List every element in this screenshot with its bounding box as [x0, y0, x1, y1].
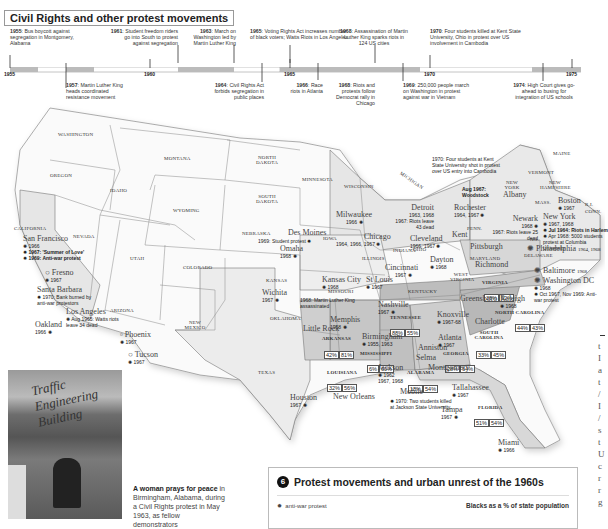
city-rochester: Rochester 1964, 1967 ✺: [454, 203, 486, 218]
edge-marker: [600, 335, 605, 336]
state-label-ri: R.I.: [585, 202, 593, 207]
city-richmond: Richmond: [475, 260, 508, 269]
timeline-event-1966: 1966: Race riots in Atlanta: [288, 82, 323, 94]
legend-number-badge: 6: [277, 476, 289, 488]
city-milwaukee: Milwaukee 1966 ✺: [336, 210, 372, 225]
state-label-arkansas: ARKANSAS: [322, 336, 351, 341]
city-phoenix: ▫ Phoenix ✺ 1967: [120, 330, 151, 345]
city-chicago: Chicago 1964, 1966, 1967 ✺: [336, 232, 391, 247]
woodstock-note: Aug 1967: Woodstock: [462, 186, 502, 198]
state-label-north-carolina: NORTH CAROLINA: [495, 310, 544, 315]
state-label-colorado: COLORADO: [183, 265, 212, 270]
timeline-event-1965: 1965: Voting Rights Act increases number…: [250, 28, 350, 40]
city-mobile: Mobile: [400, 387, 423, 396]
timeline-event-1961: 1961: Student freedom riders go into Sou…: [108, 28, 178, 46]
timeline-event-1968: 1968: Assassination of Martin Luther Kin…: [340, 28, 408, 46]
state-label-texas: TEXAS: [258, 370, 275, 375]
city-selma: Selma: [416, 353, 436, 362]
city-jackson: Jackson ✺ 1962 1967, 1968: [378, 363, 403, 384]
state-label-minnesota: MINNESOTA: [302, 177, 333, 182]
timeline-event-1969: 1969: 250,000 people march on Washington…: [403, 82, 475, 100]
city-washington-dc: ✺ Washington DC ✺ 1968 ✹ Oct 1967, Nov 1…: [534, 276, 604, 303]
state-label-delaware: DELAWARE: [524, 253, 553, 258]
city-kent: Kent: [452, 230, 468, 239]
city-cleveland: Cleveland 1966, 1967 ✺: [410, 234, 442, 249]
city-newark: Newark 1968 ✺ 1967: Riots leave 25 dead: [488, 214, 538, 241]
timeline-event-1974: 1974: High Court gives go-ahead to busin…: [510, 82, 578, 100]
city-pittsburgh: Pittsburgh: [470, 242, 503, 251]
city-boston: Boston ✺ 1967: [558, 196, 581, 211]
city-cincinnati: Cincinnati 1967 ✺: [385, 263, 418, 278]
timeline-year-1955: 1955: [4, 71, 15, 77]
city-raleigh: Raleigh ✺ 1968: [500, 294, 525, 309]
city-tampa: Tampa 1967 ✺: [441, 405, 463, 420]
state-label-utah: UTAH: [130, 256, 144, 261]
kent-state-note: 1970: Four students at Kent State Univer…: [432, 156, 504, 174]
city-new-orleans: New Orleans: [333, 392, 375, 401]
timeline-title: Civil Rights and other protest movements: [4, 10, 234, 26]
city-tucson: ○ Tucson ✺ 1967: [128, 350, 158, 365]
state-label-idaho: IDAHO: [110, 188, 127, 193]
state-label-north-dakota: NORTH DAKOTA: [252, 155, 282, 165]
timeline-year-1970: 1970: [424, 71, 435, 77]
protest-photo: Traffic Engineering Building: [8, 370, 122, 519]
state-label-vermont: VERMONT: [528, 170, 554, 175]
city-baltimore: ✺ Baltimore 1968: [534, 266, 587, 275]
state-label-mississippi: MISSISSIPPI: [360, 351, 392, 356]
legend-title: Protest movements and urban unrest of th…: [294, 476, 544, 488]
city-los-angeles: Los Angeles ✺ Aug 1965: Watts riots leav…: [66, 307, 126, 328]
timeline-event-1964: 1964: Civil Rights Act forbids segregati…: [206, 82, 264, 100]
timeline-year-1975: 1975: [566, 71, 577, 77]
city-detroit: Detroit 1963, 1968 1967: Riots leave 43 …: [392, 203, 434, 230]
legend-blacks-percent-heading: Blacks as a % of state population: [466, 502, 569, 509]
edge-text-column: t I a t / I / s t U c r r g: [598, 340, 608, 508]
city-knoxville: Knoxville ✺ 1967-68: [437, 310, 469, 325]
city-dayton: Dayton ✺ 1968: [430, 255, 454, 270]
city-oakland: Oakland 1966 ✺: [35, 320, 62, 335]
state-label-wisconsin: WISCONSIN: [344, 184, 374, 189]
city-tallahassee: Tallahassee ✺ 1967: [452, 383, 489, 398]
state-label-washington: WASHINGTON: [58, 132, 93, 137]
state-label-maine: MAINE: [553, 151, 570, 156]
timeline-event-1970: 1970: Four students killed at Kent State…: [430, 28, 525, 46]
state-label-nebraska: NEBRASKA: [242, 231, 271, 236]
legend-item-anti-war: ✹ anti-war protest: [277, 502, 327, 509]
state-label-florida: FLORIDA: [478, 405, 502, 410]
city-houston: Houston 1967 ✺: [290, 393, 317, 408]
state-label-new-mexico: NEW MEXICO: [180, 320, 210, 330]
legend-panel: 6 Protest movements and urban unrest of …: [268, 467, 578, 529]
state-label-montana: MONTANA: [164, 156, 191, 161]
state-label-virginia: VIRGINIA: [482, 280, 508, 285]
pct-florida: 51%54%: [474, 411, 504, 429]
city-albany: Albany: [503, 190, 527, 199]
timeline-year-1965: 1965: [284, 71, 295, 77]
state-label-louisiana: LOUISIANA: [327, 370, 357, 375]
state-label-oregon: OREGON: [50, 173, 72, 178]
city-fresno: ○ Fresno ✺ 1967: [45, 268, 74, 283]
pct-arkansas: 42%81%: [324, 343, 354, 361]
pct-north-carolina: 44%43%: [515, 316, 545, 334]
city-montgomery: Montgomery: [428, 363, 470, 372]
city-kansas-city: Kansas City ✺ 1968: [322, 275, 361, 290]
timeline-event-1955: 1955: Bus boycott against segregation in…: [10, 28, 85, 46]
bystander-figure: [8, 465, 26, 519]
state-label-illinois: ILLINOIS: [362, 256, 385, 261]
timeline-event-1963: 1963: March on Washington led by Martin …: [186, 28, 236, 46]
city-miami: Miami ✺ 1966: [498, 438, 519, 453]
state-label-oklahoma: OKLAHOMA: [270, 316, 301, 321]
kansas-city-note: 1968: Martin Luther King assassinated: [300, 297, 370, 309]
city-greensboro: Greensboro: [460, 294, 497, 303]
city-nashville: Nashville 1967 ✺: [378, 300, 409, 315]
state-label-california: CALIFORNIA: [14, 226, 46, 231]
timeline-year-1960: 1960: [144, 71, 155, 77]
state-label-tennessee: TENNESSEE: [390, 315, 421, 320]
state-label-west-virginia: WEST VIRGINIA: [450, 272, 472, 282]
city-birmingham: Birmingham ✺ 1955, 1963: [362, 332, 402, 347]
praying-woman-figure: [53, 458, 81, 508]
city-san-francisco: San Francisco ✺ 1966 ✹ 1967: 'Summer of …: [23, 234, 84, 261]
photo-caption: A woman prays for peace in Birmingham, A…: [133, 484, 225, 529]
state-label-new-york: NEW YORK: [500, 180, 524, 190]
state-label-wyoming: WYOMING: [173, 208, 200, 213]
photo-sign: Traffic Engineering Building: [30, 370, 122, 431]
state-label-kansas: KANSAS: [266, 278, 287, 283]
